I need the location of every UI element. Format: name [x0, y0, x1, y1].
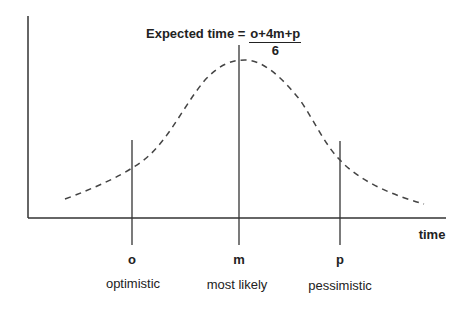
formula-fraction: o+4m+p 6 — [249, 26, 301, 59]
probability-curve — [65, 60, 424, 204]
expected-time-formula: Expected time = o+4m+p 6 — [146, 26, 301, 59]
marker-o-symbol: o — [128, 252, 136, 267]
formula-denominator: 6 — [272, 43, 279, 59]
marker-p-description: pessimistic — [308, 278, 372, 293]
formula-lhs: Expected time = — [146, 26, 245, 41]
marker-m-description: most likely — [207, 277, 268, 292]
x-axis-label: time — [419, 227, 446, 242]
marker-p-symbol: p — [336, 252, 344, 267]
marker-o-description: optimistic — [106, 276, 160, 291]
formula-numerator: o+4m+p — [249, 26, 301, 43]
marker-m-symbol: m — [233, 252, 245, 267]
